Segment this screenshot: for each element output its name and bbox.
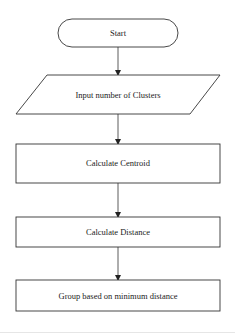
divider <box>0 332 235 333</box>
node-group: Group based on minimum distance <box>16 280 220 311</box>
node-distance: Calculate Distance <box>16 217 220 247</box>
node-centroid: Calculate Centroid <box>16 144 220 183</box>
node-label: Calculate Centroid <box>86 158 151 168</box>
node-label: Calculate Distance <box>86 227 150 237</box>
node-label: Input number of Clusters <box>75 90 160 100</box>
node-start: Start <box>58 19 178 47</box>
flowchart: Start Input number of Clusters Calculate… <box>0 0 235 334</box>
node-input: Input number of Clusters <box>16 75 220 114</box>
node-label: Start <box>110 28 127 38</box>
node-label: Group based on minimum distance <box>59 291 178 301</box>
